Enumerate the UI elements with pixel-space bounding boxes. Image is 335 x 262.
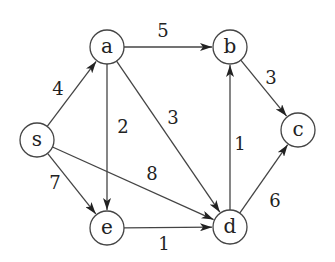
node-label: e [101,215,113,239]
node-a: a [90,30,124,64]
edge-a-d: 3 [117,61,220,212]
edge-weight-label: 7 [49,172,60,193]
edge-s-d: 8 [52,147,213,220]
edge-weight-label: 2 [117,116,128,137]
edge-weight-label: 4 [52,78,63,99]
graph-diagram: 4523871136 sabced [0,0,335,262]
edge-arrow [241,60,287,116]
edge-s-e: 7 [48,153,96,214]
node-label: a [101,34,113,58]
node-label: c [292,117,303,141]
edge-weight-label: 5 [157,20,168,41]
node-label: s [32,127,42,151]
edge-arrow [124,227,212,228]
edge-b-c: 3 [241,60,287,116]
edge-d-b: 1 [230,65,246,210]
edge-weight-label: 1 [234,133,245,154]
edge-a-e: 2 [107,64,129,210]
node-e: e [90,211,124,245]
edge-a-b: 5 [124,20,212,48]
node-d: d [213,210,247,244]
edge-s-a: 4 [47,61,96,126]
edge-arrow [52,147,213,220]
edge-weight-label: 3 [167,107,178,128]
edge-weight-label: 6 [269,190,280,211]
edge-d-c: 6 [240,145,288,213]
edge-weight-label: 1 [158,233,169,254]
node-c: c [281,113,315,147]
node-label: d [224,214,237,238]
node-b: b [213,30,247,64]
edge-weight-label: 8 [146,163,157,184]
node-s: s [20,123,54,157]
edges-layer: 4523871136 [47,20,287,254]
node-label: b [224,34,237,58]
edge-e-d: 1 [124,227,212,253]
edge-weight-label: 3 [265,67,276,88]
nodes-layer: sabced [20,30,315,245]
edge-arrow [117,61,220,212]
